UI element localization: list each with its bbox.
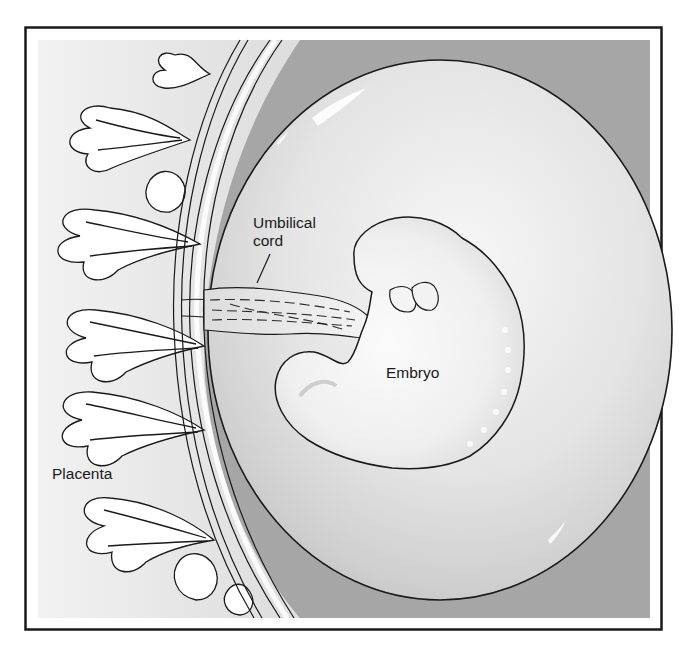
placenta-embryo-diagram: Umbilical cord Embryo Placenta [0,0,680,648]
label-placenta: Placenta [52,465,112,483]
diagram-canvas [0,0,680,648]
label-embryo: Embryo [386,364,439,382]
label-umbilical-cord-line1: Umbilical [253,214,316,232]
label-umbilical-cord-line2: cord [253,232,283,250]
